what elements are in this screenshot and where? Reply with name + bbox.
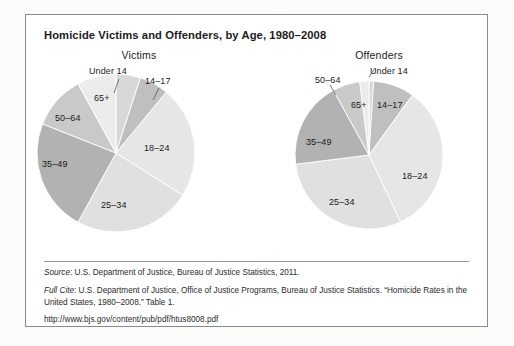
- chart-victims-title: Victims: [34, 49, 244, 61]
- source-note: Source: U.S. Department of Justice, Bure…: [44, 267, 471, 278]
- chart-offenders-plot: Under 14 14–17 18–24 25–34 35–49 50–64 6…: [274, 67, 484, 262]
- chart-victims-plot: Under 14 14–17 18–24 25–34 35–49 50–64 6…: [34, 67, 244, 262]
- page-background: Homicide Victims and Offenders, by Age, …: [0, 0, 514, 346]
- fullcite-text: : U.S. Department of Justice, Office of …: [44, 286, 467, 306]
- figure-notes: Source: U.S. Department of Justice, Bure…: [44, 267, 471, 326]
- offenders-leader-lines: [274, 67, 484, 262]
- charts-container: Victims Under 14 14–17 18–24 25–34 35–49…: [26, 49, 487, 264]
- figure-title: Homicide Victims and Offenders, by Age, …: [44, 29, 326, 41]
- chart-victims: Victims Under 14 14–17 18–24 25–34 35–49…: [34, 49, 244, 264]
- source-text: : U.S. Department of Justice, Bureau of …: [70, 268, 300, 277]
- source-label: Source: [44, 268, 70, 277]
- figure-box: Homicide Victims and Offenders, by Age, …: [25, 14, 488, 327]
- chart-offenders-title: Offenders: [274, 49, 484, 61]
- footer-divider: [44, 261, 469, 262]
- victims-leader-lines: [34, 67, 244, 262]
- fullcite-label: Full Cite: [44, 286, 74, 295]
- chart-offenders: Offenders Under 14 14–17 18–24 25–34 35–…: [274, 49, 484, 264]
- fullcite-note: Full Cite: U.S. Department of Justice, O…: [44, 285, 471, 308]
- source-url[interactable]: http://www.bjs.gov/content/pub/pdf/htus8…: [44, 314, 471, 325]
